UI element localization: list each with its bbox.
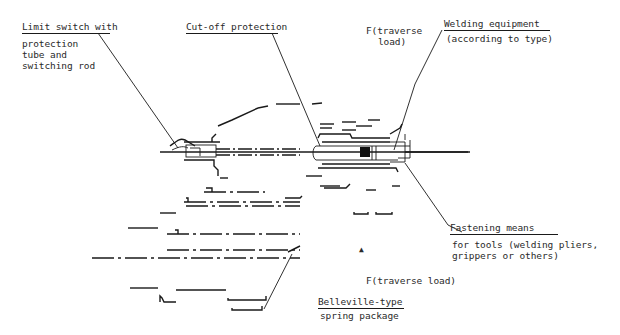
label-traverse-load-top-line2: load) <box>378 36 406 47</box>
traverse-load-arrow-icon: ▲ <box>359 244 364 255</box>
label-fastening-means-line2: grippers or others) <box>452 250 559 261</box>
leader-limit-switch <box>98 33 178 148</box>
label-limit-switch-line2: tube and <box>22 49 67 60</box>
leader-belleville <box>264 254 292 309</box>
label-limit-switch-line3: switching rod <box>22 60 95 71</box>
label-welding-equipment: Welding equipment <box>444 18 550 31</box>
leader-welding <box>394 30 442 150</box>
label-traverse-load-top-line1: F(traverse <box>366 25 422 36</box>
cutoff-body-bottom <box>318 168 398 172</box>
label-fastening-means: Fastening means <box>450 222 558 235</box>
label-fastening-means-line1: for tools (welding pliers, <box>452 239 598 250</box>
leader-cutoff <box>272 33 320 146</box>
label-limit-switch-title: Limit switch with <box>22 21 110 34</box>
label-spring-package: spring package <box>320 310 399 321</box>
mechanical-drawing <box>0 0 620 335</box>
limit-switch-housing <box>186 145 216 157</box>
cutoff-body-top <box>318 134 390 138</box>
spring-package-block <box>360 147 370 157</box>
label-limit-switch-line1: protection <box>22 38 78 49</box>
label-belleville-type: Belleville-type <box>318 296 404 309</box>
label-traverse-load-bottom: F(traverse load) <box>366 275 456 286</box>
label-welding-equipment-type: (according to type) <box>446 33 553 44</box>
label-cutoff-protection: Cut-off protection <box>186 21 278 34</box>
